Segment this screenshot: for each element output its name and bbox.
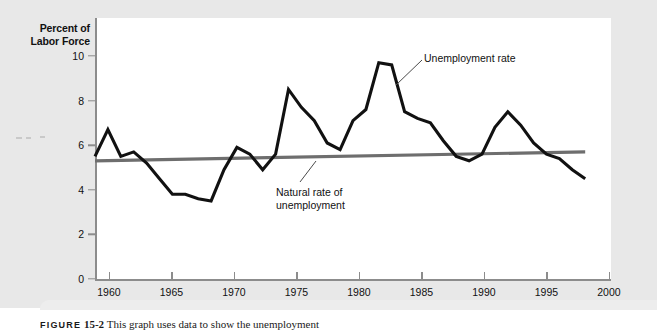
x-tick-label-1965: 1965	[150, 286, 192, 298]
y-axis-line	[95, 18, 97, 280]
x-tick-mark-1965	[171, 272, 172, 280]
y-axis-title-line-2: Labor Force	[30, 35, 90, 48]
y-axis-title: Percent of Labor Force	[30, 22, 90, 48]
x-tick-label-2000: 2000	[588, 286, 630, 298]
y-axis-title-line-1: Percent of	[30, 22, 90, 35]
y-tick-mark-8	[88, 100, 95, 101]
x-tick-mark-1970	[234, 272, 235, 280]
annotation-natural-rate-line-1: Natural rate of	[276, 186, 345, 199]
plot-area	[95, 18, 611, 280]
y-tick-label-6: 6	[50, 139, 84, 151]
x-tick-label-1985: 1985	[400, 286, 442, 298]
x-tick-mark-1960	[109, 272, 110, 280]
figure-caption: FIGURE 15-2 This graph uses data to show…	[40, 318, 640, 330]
caption-text: This graph uses data to show the unemplo…	[107, 318, 319, 330]
figure-container: Percent of Labor Force 10 8 6 4 2 0 1960…	[0, 0, 657, 335]
x-tick-mark-1995	[546, 272, 547, 280]
x-tick-mark-1975	[296, 272, 297, 280]
x-tick-mark-2000	[609, 272, 610, 280]
scan-artifact-3	[40, 136, 45, 138]
y-tick-mark-10	[88, 55, 95, 56]
y-tick-mark-2	[88, 234, 95, 235]
y-tick-mark-4	[88, 189, 95, 190]
scan-artifact-1	[16, 137, 22, 139]
caption-lead: FIGURE	[40, 320, 81, 330]
x-tick-mark-1990	[484, 272, 485, 280]
x-tick-mark-1980	[359, 272, 360, 280]
y-tick-label-2: 2	[50, 228, 84, 240]
caption-number: 15-2	[84, 318, 104, 330]
x-tick-label-1990: 1990	[463, 286, 505, 298]
annotation-natural-rate: Natural rate of unemployment	[276, 186, 345, 212]
x-tick-label-1995: 1995	[525, 286, 567, 298]
y-tick-mark-0	[88, 278, 95, 279]
y-tick-mark-6	[88, 144, 95, 145]
y-tick-label-4: 4	[50, 184, 84, 196]
scan-artifact-2	[26, 137, 31, 139]
x-tick-label-1975: 1975	[275, 286, 317, 298]
x-tick-mark-1985	[421, 272, 422, 280]
y-tick-label-8: 8	[50, 95, 84, 107]
x-tick-label-1960: 1960	[88, 286, 130, 298]
annotation-natural-rate-line-2: unemployment	[276, 199, 345, 212]
x-tick-label-1980: 1980	[338, 286, 380, 298]
y-tick-label-10: 10	[50, 50, 84, 62]
x-tick-label-1970: 1970	[213, 286, 255, 298]
caption-band	[40, 300, 657, 310]
annotation-unemployment-rate: Unemployment rate	[424, 52, 516, 65]
y-tick-label-0: 0	[50, 273, 84, 285]
